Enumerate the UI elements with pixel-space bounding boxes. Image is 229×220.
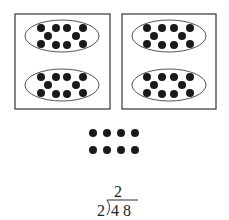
ten-group-ellipse bbox=[25, 20, 99, 52]
ten-group-ellipse bbox=[132, 20, 206, 52]
dividend: 4 8 bbox=[111, 203, 131, 219]
group-box-1 bbox=[15, 14, 110, 109]
ten-group-ellipse bbox=[132, 69, 206, 101]
remaining-ones-dots bbox=[89, 129, 139, 154]
ten-group-ellipse bbox=[25, 69, 99, 101]
group-box-2 bbox=[122, 14, 216, 109]
divisor: 2 bbox=[97, 203, 105, 219]
quotient: 2 bbox=[114, 184, 122, 200]
